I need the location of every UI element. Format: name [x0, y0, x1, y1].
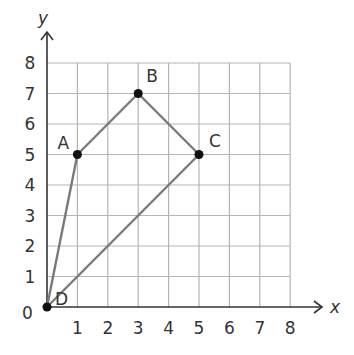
segment-CD — [47, 155, 199, 308]
point-C — [195, 150, 204, 159]
x-tick-label: 6 — [224, 318, 235, 338]
polygon-segments — [47, 94, 199, 308]
segment-DA — [47, 155, 77, 308]
x-tick-label: 4 — [163, 318, 174, 338]
x-tick-label: 2 — [102, 318, 113, 338]
point-label-D: D — [55, 289, 68, 309]
polygon-points: ABCD — [43, 66, 221, 312]
x-tick-label: 1 — [72, 318, 83, 338]
coordinate-plane: ABCD 1234567812345678 x y 0 — [0, 0, 354, 355]
point-label-B: B — [146, 66, 158, 86]
y-axis-label: y — [37, 8, 49, 28]
x-tick-label: 8 — [285, 318, 296, 338]
point-D — [43, 303, 52, 312]
y-tick-label: 7 — [25, 84, 36, 104]
origin-label: 0 — [22, 303, 33, 323]
y-tick-label: 6 — [25, 114, 36, 134]
point-B — [134, 89, 143, 98]
point-A — [73, 150, 82, 159]
x-tick-label: 5 — [194, 318, 205, 338]
y-tick-label: 8 — [25, 53, 36, 73]
y-tick-label: 5 — [25, 145, 36, 165]
x-axis-label: x — [329, 297, 341, 317]
x-tick-label: 7 — [254, 318, 265, 338]
point-label-C: C — [209, 131, 221, 151]
y-tick-label: 4 — [25, 175, 36, 195]
y-tick-label: 3 — [25, 206, 36, 226]
point-label-A: A — [57, 133, 69, 153]
y-tick-label: 2 — [25, 236, 36, 256]
y-tick-label: 1 — [25, 267, 36, 287]
x-tick-label: 3 — [133, 318, 144, 338]
